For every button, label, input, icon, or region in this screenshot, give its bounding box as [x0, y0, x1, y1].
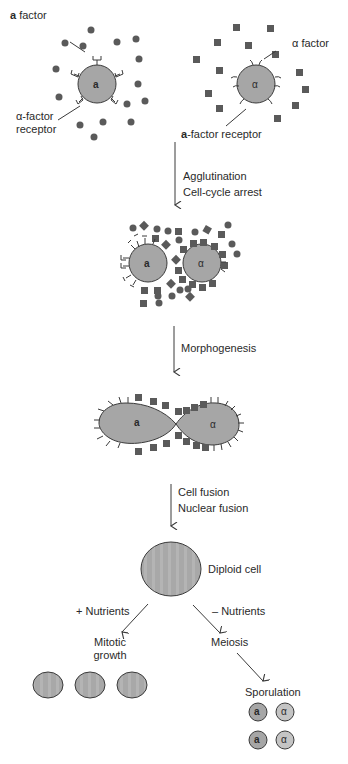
- alpha-factor-label: α factor: [292, 37, 329, 50]
- diploid-cell: [141, 542, 201, 596]
- spore-a-2: a: [254, 733, 260, 746]
- shmoo-cells: [94, 394, 244, 455]
- step-morphogenesis: Morphogenesis: [181, 342, 256, 355]
- step-agglutination: AgglutinationCell-cycle arrest: [183, 168, 262, 200]
- arrow-sporulation: [237, 653, 263, 681]
- a-cell-with-factors: [53, 27, 149, 141]
- minus-nutrients-label: – Nutrients: [212, 605, 265, 618]
- step-fusion: Cell fusionNuclear fusion: [178, 484, 248, 516]
- a-receptor-label: a-factor receptor: [181, 128, 262, 141]
- spore-a-1: a: [254, 705, 260, 718]
- agglutinated-cells: [121, 221, 241, 307]
- mitotic-cells: [33, 672, 147, 698]
- a-factor-label: a factor: [10, 9, 47, 22]
- mitotic-growth-label: Mitoticgrowth: [90, 636, 130, 662]
- a-cell-letter: a: [93, 78, 99, 91]
- spore-alpha-1: α: [281, 705, 287, 718]
- meiosis-label: Meiosis: [211, 636, 248, 649]
- stage3-a-letter: a: [134, 416, 140, 429]
- alpha-receptor-label: α-factorreceptor: [16, 110, 56, 136]
- diploid-label: Diploid cell: [208, 563, 261, 576]
- stage2-alpha-letter: α: [198, 257, 204, 270]
- alpha-cell-letter: α: [252, 78, 258, 91]
- stage2-a-letter: a: [144, 257, 150, 270]
- sporulation-label: Sporulation: [245, 686, 301, 699]
- stage3-alpha-letter: α: [210, 418, 216, 431]
- spore-alpha-2: α: [281, 733, 287, 746]
- plus-nutrients-label: + Nutrients: [76, 605, 130, 618]
